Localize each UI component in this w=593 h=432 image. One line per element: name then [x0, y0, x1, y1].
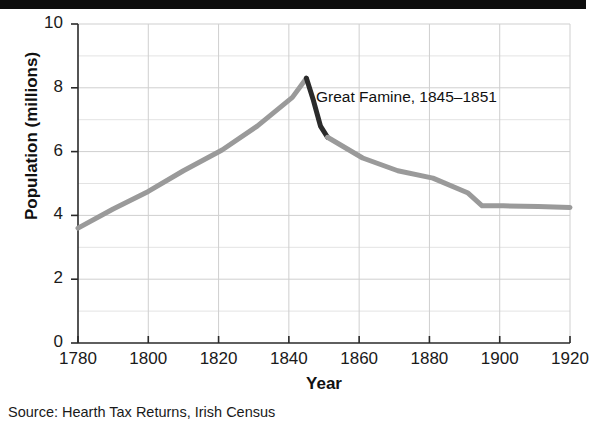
- x-tick-label: 1860: [324, 349, 394, 369]
- x-tick-label: 1780: [43, 349, 113, 369]
- x-tick-label: 1840: [254, 349, 324, 369]
- y-tick-label: 2: [33, 268, 63, 288]
- x-tick-label: 1820: [184, 349, 254, 369]
- x-tick-label: 1920: [535, 349, 593, 369]
- x-tick-label: 1900: [465, 349, 535, 369]
- source-note: Source: Hearth Tax Returns, Irish Census: [8, 404, 275, 420]
- x-axis-title-text: Year: [306, 374, 342, 393]
- y-axis-ticks: [71, 24, 78, 343]
- x-tick-label: 1880: [394, 349, 464, 369]
- y-axis-title-text: Population (millions): [22, 52, 41, 220]
- y-axis-title: Population (millions): [22, 16, 42, 256]
- x-axis-title: Year: [78, 374, 570, 394]
- famine-annotation: Great Famine, 1845–1851: [316, 88, 497, 106]
- x-tick-label: 1800: [113, 349, 183, 369]
